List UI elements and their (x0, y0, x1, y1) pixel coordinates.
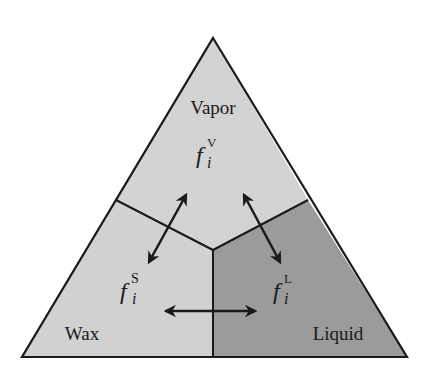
svg-text:i: i (132, 290, 136, 307)
liquid-label: Liquid (313, 323, 364, 344)
vapor-label: Vapor (190, 97, 236, 118)
svg-text:L: L (284, 271, 292, 286)
svg-text:i: i (207, 154, 211, 171)
svg-text:V: V (207, 135, 217, 150)
wax-label: Wax (65, 323, 100, 344)
svg-text:S: S (131, 271, 139, 286)
phase-triangle-diagram: Vapor Wax Liquid f i V f i S f i L (0, 0, 428, 376)
svg-text:i: i (284, 290, 288, 307)
